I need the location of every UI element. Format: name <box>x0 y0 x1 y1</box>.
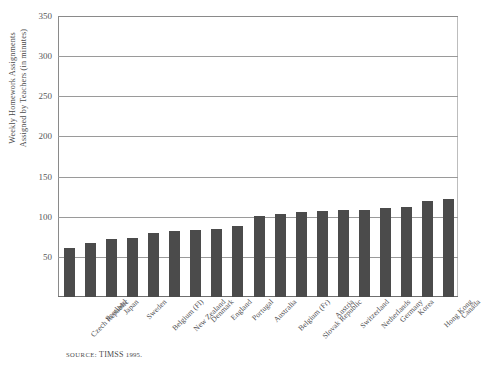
bar <box>64 248 75 297</box>
bar <box>317 211 328 297</box>
x-tick-label: Portugal <box>251 298 275 322</box>
bar-series <box>59 16 457 297</box>
bar <box>338 210 349 297</box>
y-tick-label: 200 <box>12 132 52 141</box>
x-tick-label: Australia <box>272 298 298 324</box>
bar <box>443 199 454 297</box>
bar <box>275 214 286 297</box>
bar <box>106 239 117 297</box>
bar <box>380 208 391 297</box>
y-tick-label: 100 <box>12 213 52 222</box>
bar <box>422 201 433 297</box>
y-tick-label: 350 <box>12 12 52 21</box>
bar <box>359 210 370 298</box>
bar <box>232 226 243 297</box>
bar <box>169 231 180 297</box>
bar <box>190 230 201 297</box>
x-axis-tick-labels: Czech RepublicScotlandJapanSwedenBelgium… <box>59 298 457 350</box>
y-tick-label: 300 <box>12 52 52 61</box>
source-note: SOURCE: TIMSS 1995. <box>66 350 142 359</box>
source-label: SOURCE: <box>66 351 97 358</box>
source-year: 1995. <box>126 351 142 358</box>
y-tick-label: 150 <box>12 173 52 182</box>
bar <box>211 229 222 297</box>
chart-title <box>0 0 465 5</box>
bar <box>401 207 412 297</box>
x-tick-label: Sweden <box>145 298 168 321</box>
y-tick-label: 250 <box>12 92 52 101</box>
bar <box>254 216 265 297</box>
bar <box>148 233 159 297</box>
bar <box>127 238 138 297</box>
bar <box>296 212 307 297</box>
bar <box>85 243 96 297</box>
source-name: TIMSS <box>99 350 124 359</box>
y-tick-label: 50 <box>12 253 52 262</box>
